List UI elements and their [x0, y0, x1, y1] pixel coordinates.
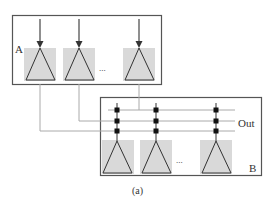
output-label: Out [238, 118, 255, 129]
block-a-label: A [15, 44, 23, 55]
figure-caption: (a) [132, 186, 143, 196]
diagram-canvas [0, 0, 275, 201]
block-b-ellipsis: ... [176, 156, 183, 165]
block-b-label: B [249, 163, 256, 174]
block-a-ellipsis: ... [99, 64, 106, 73]
